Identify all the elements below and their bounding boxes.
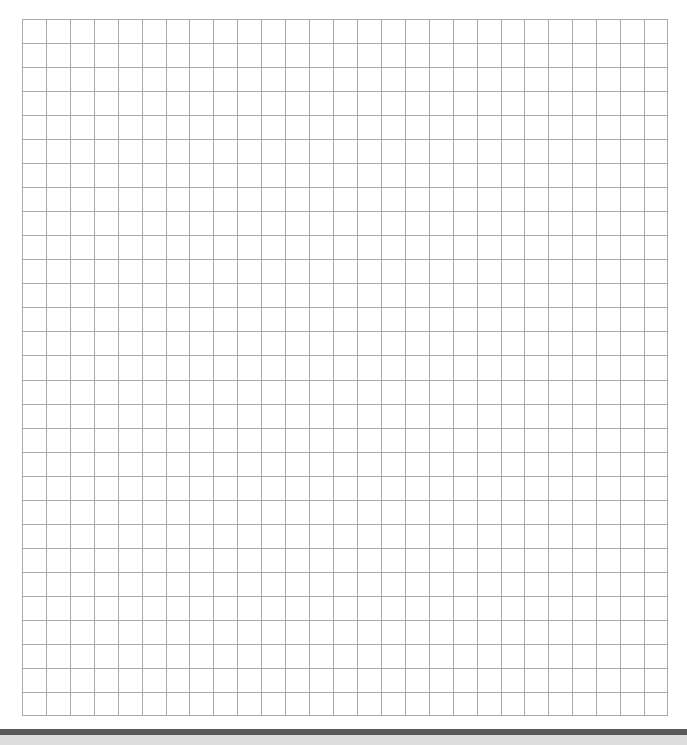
grid-line-horizontal: [22, 572, 668, 573]
grid-line-horizontal: [22, 692, 668, 693]
grid-line-horizontal: [22, 644, 668, 645]
grid-line-vertical: [94, 19, 95, 716]
grid-line-vertical: [453, 19, 454, 716]
grid-line-horizontal: [22, 548, 668, 549]
grid-line-vertical: [501, 19, 502, 716]
grid-line-horizontal: [22, 43, 668, 44]
grid-line-vertical: [357, 19, 358, 716]
grid-line-horizontal: [22, 331, 668, 332]
graph-paper-grid: [22, 19, 668, 716]
grid-line-vertical: [166, 19, 167, 716]
grid-line-horizontal: [22, 259, 668, 260]
grid-line-horizontal: [22, 163, 668, 164]
grid-line-horizontal: [22, 476, 668, 477]
grid-line-vertical: [22, 19, 23, 716]
grid-line-vertical: [333, 19, 334, 716]
grid-line-horizontal: [22, 596, 668, 597]
grid-line-horizontal: [22, 404, 668, 405]
grid-line-vertical: [477, 19, 478, 716]
grid-line-vertical: [118, 19, 119, 716]
grid-line-horizontal: [22, 19, 668, 20]
grid-line-horizontal: [22, 91, 668, 92]
grid-line-horizontal: [22, 380, 668, 381]
grid-line-horizontal: [22, 115, 668, 116]
grid-line-vertical: [429, 19, 430, 716]
grid-line-horizontal: [22, 500, 668, 501]
grid-line-vertical: [261, 19, 262, 716]
grid-line-vertical: [405, 19, 406, 716]
grid-line-vertical: [620, 19, 621, 716]
grid-line-horizontal: [22, 67, 668, 68]
grid-line-horizontal: [22, 211, 668, 212]
grid-line-horizontal: [22, 620, 668, 621]
grid-line-vertical: [309, 19, 310, 716]
grid-line-horizontal: [22, 139, 668, 140]
grid-line-vertical: [596, 19, 597, 716]
grid-line-horizontal: [22, 524, 668, 525]
grid-line-vertical: [70, 19, 71, 716]
scan-edge-light-band: [0, 735, 687, 745]
grid-line-vertical: [524, 19, 525, 716]
grid-line-vertical: [548, 19, 549, 716]
grid-line-vertical: [572, 19, 573, 716]
grid-line-horizontal: [22, 355, 668, 356]
grid-line-vertical: [237, 19, 238, 716]
grid-line-horizontal: [22, 235, 668, 236]
grid-line-horizontal: [22, 452, 668, 453]
grid-line-vertical: [46, 19, 47, 716]
grid-line-horizontal: [22, 307, 668, 308]
grid-line-vertical: [213, 19, 214, 716]
grid-line-horizontal: [22, 428, 668, 429]
grid-line-horizontal: [22, 187, 668, 188]
grid-line-vertical: [142, 19, 143, 716]
grid-line-horizontal: [22, 668, 668, 669]
grid-line-vertical: [285, 19, 286, 716]
grid-line-vertical: [189, 19, 190, 716]
grid-line-vertical: [644, 19, 645, 716]
grid-line-vertical: [381, 19, 382, 716]
grid-line-horizontal: [22, 283, 668, 284]
